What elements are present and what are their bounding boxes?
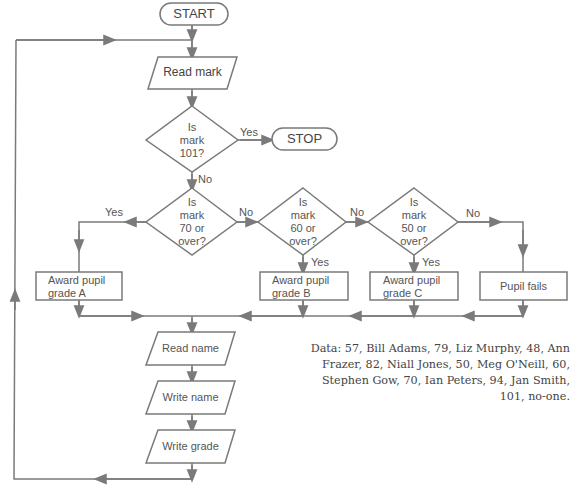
yes-label-50: Yes	[422, 256, 440, 269]
grade-a-line: Award pupil	[48, 274, 105, 287]
decision-50-line: 50 or	[384, 222, 444, 235]
fails-text: Pupil fails	[480, 280, 567, 293]
read-mark-label: Read mark	[148, 66, 237, 79]
decision-70-line: over?	[162, 235, 222, 248]
grade-b-text: Award pupil grade B	[272, 274, 329, 300]
decision-70-line: 70 or	[162, 222, 222, 235]
no-label-70: No	[239, 206, 253, 219]
decision-60-line: over?	[273, 235, 333, 248]
decision-50-line: over?	[384, 235, 444, 248]
grade-a-line: grade A	[48, 287, 105, 300]
decision-70-line: Is	[162, 196, 222, 209]
decision-70-line: mark	[162, 209, 222, 222]
grade-c-line: grade C	[383, 287, 440, 300]
decision-60-text: Is mark 60 or over?	[273, 196, 333, 248]
grade-b-line: Award pupil	[272, 274, 329, 287]
yes-label-101: Yes	[240, 126, 258, 139]
start-label: START	[160, 7, 228, 20]
data-note: Data: 57, Bill Adams, 79, Liz Murphy, 48…	[296, 341, 570, 405]
decision-60-line: Is	[273, 196, 333, 209]
yes-label-60: Yes	[311, 256, 329, 269]
grade-b-line: grade B	[272, 287, 329, 300]
no-label-50: No	[466, 207, 480, 220]
decision-101-line: mark	[162, 134, 222, 147]
stop-label: STOP	[272, 132, 337, 145]
write-grade-label: Write grade	[146, 440, 235, 453]
write-name-label: Write name	[146, 391, 235, 404]
decision-101-text: Is mark 101?	[162, 121, 222, 160]
no-label-60: No	[350, 206, 364, 219]
decision-50-line: mark	[384, 209, 444, 222]
grade-c-text: Award pupil grade C	[383, 274, 440, 300]
yes-label-70: Yes	[105, 206, 123, 219]
grade-c-line: Award pupil	[383, 274, 440, 287]
grade-a-text: Award pupil grade A	[48, 274, 105, 300]
decision-70-text: Is mark 70 or over?	[162, 196, 222, 248]
decision-50-text: Is mark 50 or over?	[384, 196, 444, 248]
decision-50-line: Is	[384, 196, 444, 209]
decision-101-line: 101?	[162, 147, 222, 160]
decision-101-line: Is	[162, 121, 222, 134]
read-name-label: Read name	[146, 342, 235, 355]
decision-60-line: mark	[273, 209, 333, 222]
decision-60-line: 60 or	[273, 222, 333, 235]
no-label-101: No	[198, 173, 212, 186]
